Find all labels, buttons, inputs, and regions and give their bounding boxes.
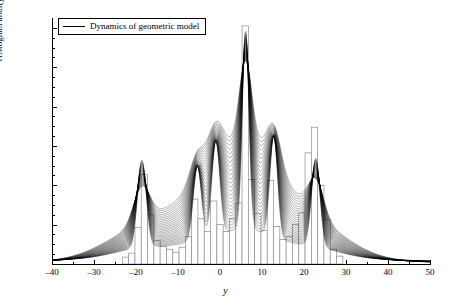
density-histogram-figure: 0.020.040.060.080.100.12–40–30–20–100102… <box>0 0 451 306</box>
histogram-bar <box>337 256 343 264</box>
histogram-bar <box>179 247 185 264</box>
histogram-bar <box>198 219 204 264</box>
histogram-bar <box>135 228 141 264</box>
histogram-bar <box>160 246 166 264</box>
histogram-bar <box>261 231 267 264</box>
legend-label-0: Dynamics of geometric model <box>90 21 199 32</box>
x-axis-title: y <box>0 285 451 296</box>
histogram-bar <box>211 201 217 264</box>
histogram-bar <box>280 239 286 264</box>
histogram-bar <box>223 232 229 264</box>
histogram-bar <box>166 249 172 264</box>
histogram-bar <box>217 225 223 264</box>
y-axis-title-prefix: Histogram and <box>0 8 4 61</box>
y-axis-title-symbol: f^ <box>0 5 4 8</box>
histogram-bar <box>173 252 179 264</box>
y-axis-title: Histogram andf^(y) <box>0 0 4 88</box>
plot-graphics <box>0 0 451 306</box>
histogram-bar <box>311 127 317 264</box>
histogram-bar <box>129 253 135 264</box>
histogram-bar <box>204 232 210 264</box>
legend-line-swatch <box>63 26 85 27</box>
histogram-bar <box>274 227 280 264</box>
legend: Dynamics of geometric model <box>58 18 206 35</box>
histogram-bar <box>122 257 128 264</box>
histogram-bar <box>192 199 198 264</box>
